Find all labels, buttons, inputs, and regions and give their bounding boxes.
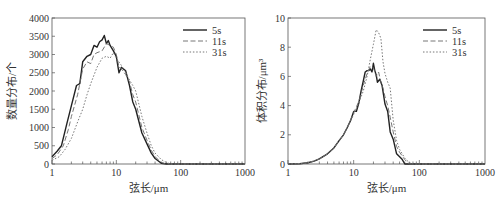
x-axis-label: 弦长/μm <box>367 181 407 194</box>
x-tick-label: 10 <box>111 167 121 178</box>
y-axis-label: 体积分布/μm³ <box>255 58 268 124</box>
legend-label-31s: 31s <box>452 47 467 58</box>
y-tick-label: 0 <box>44 159 49 170</box>
x-axis-label: 弦长/μm <box>129 181 169 194</box>
legend-label-5s: 5s <box>452 25 461 36</box>
legend-label-31s: 31s <box>212 47 227 58</box>
x-tick-label: 1000 <box>235 167 255 178</box>
y-tick-label: 10 <box>275 13 285 24</box>
x-tick-label: 100 <box>412 167 427 178</box>
x-tick-label: 1000 <box>475 167 495 178</box>
y-tick-label: 0 <box>280 159 285 170</box>
y-tick-label: 2 <box>280 129 285 140</box>
x-tick-label: 1 <box>286 167 291 178</box>
legend-label-5s: 5s <box>212 25 221 36</box>
x-tick-label: 100 <box>173 167 188 178</box>
legend: 5s11s31s <box>183 25 227 58</box>
y-tick-label: 3000 <box>29 49 49 60</box>
x-tick-label: 1 <box>50 167 55 178</box>
legend: 5s11s31s <box>423 25 467 58</box>
chart-number-distribution: 1101001000050010001500200025003000350040… <box>6 13 255 195</box>
y-tick-label: 1500 <box>29 104 49 115</box>
legend-label-11s: 11s <box>212 36 226 47</box>
y-tick-label: 2000 <box>29 86 49 97</box>
y-tick-label: 6 <box>280 71 285 82</box>
y-tick-label: 4 <box>280 100 285 111</box>
y-tick-label: 1000 <box>29 122 49 133</box>
y-tick-label: 500 <box>34 140 49 151</box>
x-tick-label: 10 <box>349 167 359 178</box>
y-tick-label: 4000 <box>29 13 49 24</box>
y-tick-label: 3500 <box>29 31 49 42</box>
y-axis-label: 数量分布/个 <box>6 62 18 120</box>
series-line-11s <box>288 66 485 164</box>
legend-label-11s: 11s <box>452 36 466 47</box>
chart-canvas: 1101001000050010001500200025003000350040… <box>0 0 501 201</box>
chart-volume-distribution: 11010010000246810弦长/μm体积分布/μm³5s11s31s <box>255 13 495 195</box>
y-tick-label: 2500 <box>29 67 49 78</box>
y-tick-label: 8 <box>280 42 285 53</box>
